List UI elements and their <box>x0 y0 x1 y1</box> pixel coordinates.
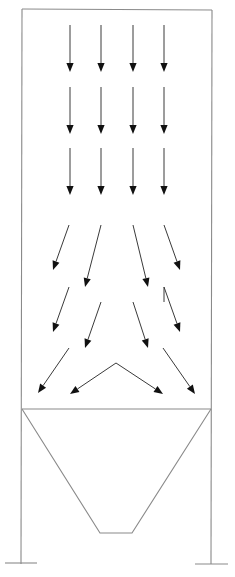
background <box>0 0 235 577</box>
dust-collector-diagram <box>0 0 235 577</box>
